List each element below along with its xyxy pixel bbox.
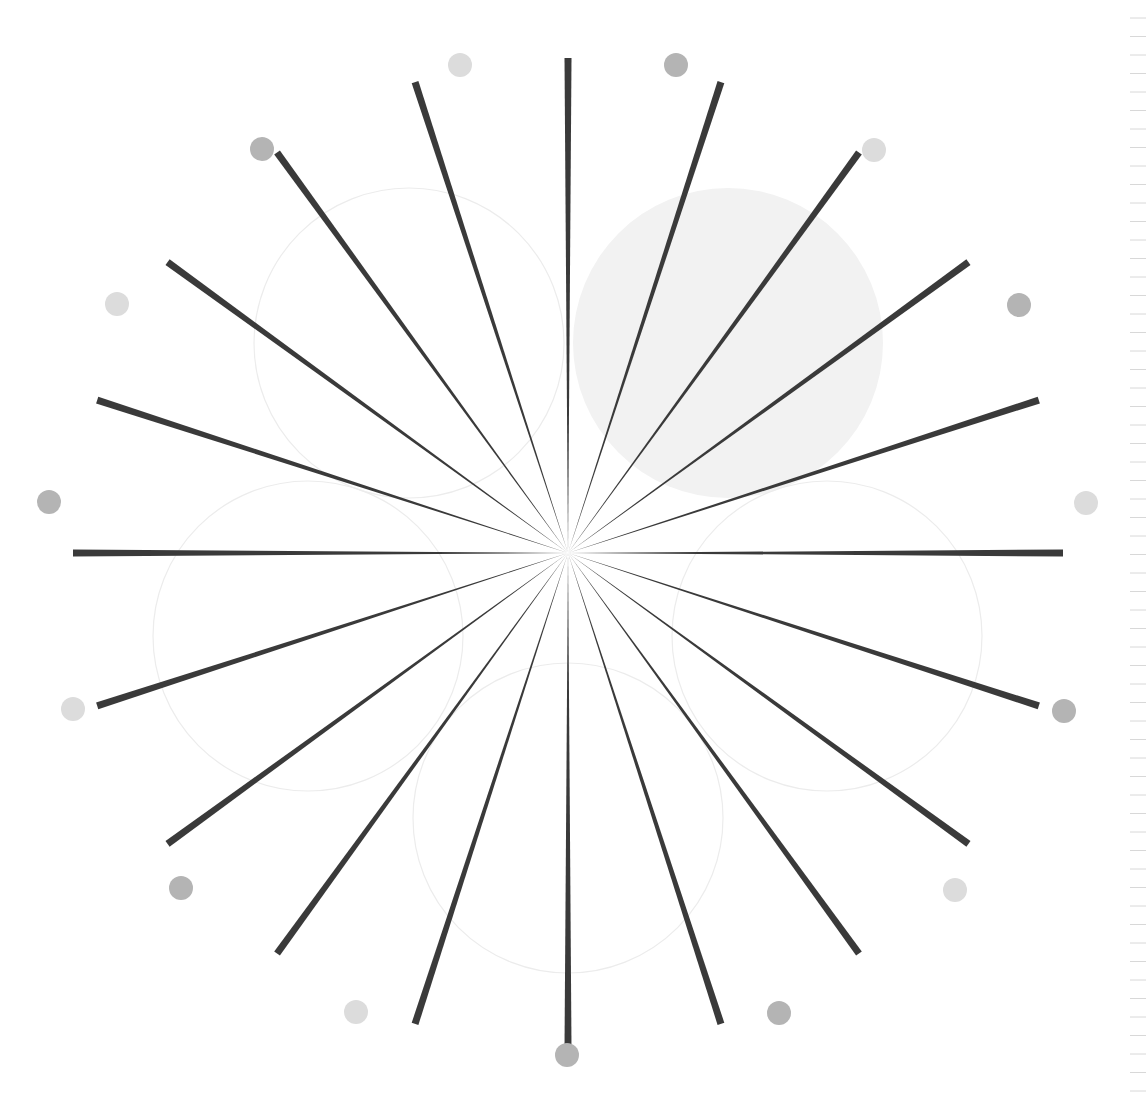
perimeter-dot xyxy=(1074,491,1098,515)
perimeter-dot xyxy=(344,1000,368,1024)
spoke xyxy=(274,553,568,956)
spoke xyxy=(568,550,1063,557)
perimeter-dot xyxy=(943,878,967,902)
perimeter-dot xyxy=(169,876,193,900)
spoke xyxy=(96,397,568,553)
perimeter-dot xyxy=(555,1043,579,1067)
perimeter-dot xyxy=(862,138,886,162)
spoke xyxy=(73,550,568,557)
spoke xyxy=(274,151,568,554)
spoke xyxy=(568,553,971,847)
spoke-pattern-canvas xyxy=(0,0,1146,1096)
perimeter-dot xyxy=(1007,293,1031,317)
spoke xyxy=(96,553,568,709)
perimeter-dot xyxy=(37,490,61,514)
perimeter-dot xyxy=(250,137,274,161)
spoke xyxy=(565,58,572,553)
spoke xyxy=(568,553,724,1025)
perimeter-dot xyxy=(61,697,85,721)
spoke xyxy=(412,81,568,553)
spoke xyxy=(568,553,862,956)
background-circle xyxy=(573,188,883,498)
star-spokes xyxy=(73,58,1063,1048)
spoke xyxy=(565,553,572,1048)
spoke xyxy=(412,553,568,1025)
perimeter-dot xyxy=(448,53,472,77)
perimeter-dot xyxy=(1052,699,1076,723)
edge-ruler-ticks xyxy=(1130,18,1146,1091)
spoke xyxy=(166,259,569,553)
perimeter-dot xyxy=(664,53,688,77)
spoke xyxy=(166,553,569,847)
spoke xyxy=(568,553,1040,709)
perimeter-dot xyxy=(767,1001,791,1025)
perimeter-dot xyxy=(105,292,129,316)
background-circle xyxy=(254,188,564,498)
